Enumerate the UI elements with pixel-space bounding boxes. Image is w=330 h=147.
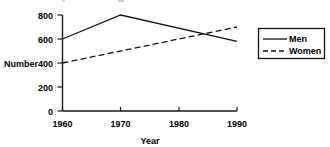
x-tick-label-1960: 1960 xyxy=(52,119,72,129)
y-tick-label-800: 800 xyxy=(38,11,53,21)
x-tick-label-1990: 1990 xyxy=(227,119,247,129)
x-axis: 1960 1970 1980 1990 Year xyxy=(52,107,247,146)
y-tick-label-600: 600 xyxy=(38,35,53,45)
chart-canvas: 800 600 400 200 0 Number 1960 1970 1980 … xyxy=(0,0,330,147)
series-line-men xyxy=(63,15,238,41)
cropped-title-remnant xyxy=(62,0,124,2)
data-series-group xyxy=(63,15,238,63)
y-tick-label-0: 0 xyxy=(48,107,53,117)
series-line-women xyxy=(63,27,238,63)
y-axis: 800 600 400 200 0 Number xyxy=(4,11,63,117)
chart-legend: Men Women xyxy=(259,29,325,59)
y-tick-label-400: 400 xyxy=(38,59,53,69)
x-tick-label-1980: 1980 xyxy=(169,119,189,129)
x-tick-label-1970: 1970 xyxy=(110,119,130,129)
legend-label-men: Men xyxy=(289,34,307,44)
legend-label-women: Women xyxy=(289,46,321,56)
x-axis-title: Year xyxy=(140,136,160,146)
y-axis-title: Number xyxy=(4,59,39,69)
y-tick-label-200: 200 xyxy=(38,83,53,93)
line-chart: 800 600 400 200 0 Number 1960 1970 1980 … xyxy=(0,0,330,147)
